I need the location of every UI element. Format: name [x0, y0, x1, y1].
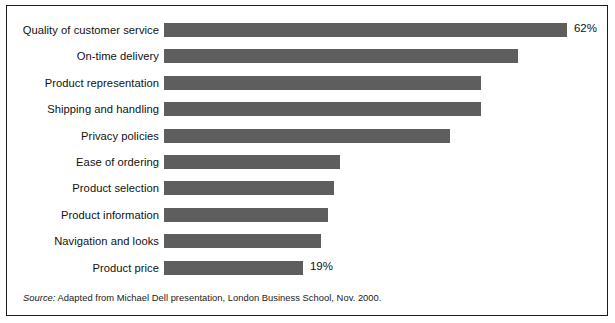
bar-category-label: Shipping and handling [7, 103, 159, 115]
bar-row: Product price19% [7, 255, 607, 281]
bar-row: Ease of ordering [7, 149, 607, 175]
bar-row: Shipping and handling [7, 96, 607, 122]
bar-track [164, 76, 603, 90]
bar-row: Product representation [7, 70, 607, 96]
bar-track: 19% [164, 261, 603, 275]
bar-category-label: On-time delivery [7, 50, 159, 62]
bar-chart: Quality of customer service62%On-time de… [7, 6, 607, 281]
bar-track [164, 102, 603, 116]
bar-track [164, 49, 603, 63]
bar-track [164, 129, 603, 143]
bar-category-label: Navigation and looks [7, 235, 159, 247]
bar-category-label: Product representation [7, 77, 159, 89]
bar-category-label: Product information [7, 209, 159, 221]
bar-fill [164, 155, 340, 169]
bar-track [164, 155, 603, 169]
bar-fill [164, 129, 450, 143]
bar-fill [164, 181, 334, 195]
bar-track [164, 208, 603, 222]
bar-category-label: Ease of ordering [7, 156, 159, 168]
bar-row: Product selection [7, 175, 607, 201]
bar-fill [164, 261, 303, 275]
bar-fill [164, 76, 481, 90]
bar-fill [164, 234, 321, 248]
bar-category-label: Product selection [7, 182, 159, 194]
bar-row: Privacy policies [7, 123, 607, 149]
bar-fill [164, 23, 567, 37]
bar-value-label: 19% [310, 260, 333, 272]
bar-track [164, 181, 603, 195]
bar-row: Navigation and looks [7, 228, 607, 254]
bar-row: Quality of customer service62% [7, 17, 607, 43]
source-label: Source: [23, 292, 55, 303]
bar-fill [164, 208, 328, 222]
bar-category-label: Quality of customer service [7, 24, 159, 36]
source-text: Adapted from Michael Dell presentation, … [55, 292, 381, 303]
bar-track: 62% [164, 23, 603, 37]
bar-row: Product information [7, 202, 607, 228]
bar-row: On-time delivery [7, 43, 607, 69]
bar-fill [164, 102, 481, 116]
chart-figure-frame: Quality of customer service62%On-time de… [6, 5, 608, 316]
bar-value-label: 62% [574, 22, 597, 34]
source-note: Source: Adapted from Michael Dell presen… [23, 292, 381, 303]
bar-track [164, 234, 603, 248]
bar-category-label: Product price [7, 262, 159, 274]
bar-category-label: Privacy policies [7, 130, 159, 142]
bar-fill [164, 49, 518, 63]
